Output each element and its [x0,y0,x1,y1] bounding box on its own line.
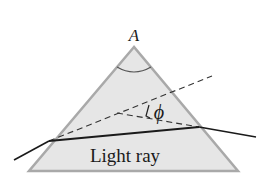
apex-label: A [128,26,140,45]
prism-diagram: A ϕ Light ray [0,0,272,196]
deviation-angle-label: ϕ [154,101,164,124]
ray-label: Light ray [90,145,161,166]
